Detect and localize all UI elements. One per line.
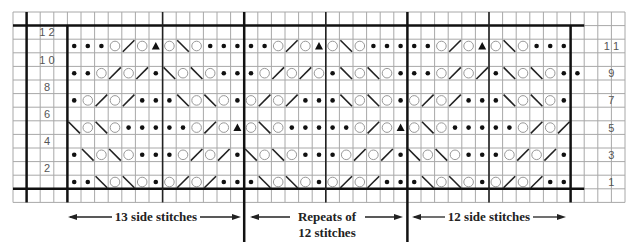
right-arrow-head-icon [557,214,566,220]
yarn-over-circle-icon [423,150,433,160]
yarn-over-circle-icon [464,68,474,78]
knit-dot-icon [480,180,485,185]
knit-dot-icon [222,180,227,185]
yarn-over-circle-icon [246,96,256,106]
yarn-over-circle-icon [545,123,555,133]
right-row-label: 7 [608,94,614,106]
yarn-over-circle-icon [464,177,474,187]
knit-dot-icon [562,98,567,103]
right-decrease-slash-icon [368,176,380,188]
knit-dot-icon [140,98,145,103]
right-decrease-slash-icon [368,122,380,134]
double-decrease-triangle-icon [397,124,405,132]
right-decrease-slash-icon [96,95,108,107]
yarn-over-circle-icon [382,68,392,78]
knit-dot-icon [412,71,417,76]
left-decrease-slash-icon [531,67,543,79]
right-decrease-slash-icon [449,40,461,52]
knit-dot-icon [154,71,159,76]
yarn-over-circle-icon [545,96,555,106]
knit-dot-icon [86,71,91,76]
left-decrease-slash-icon [191,67,203,79]
left-decrease-slash-icon [259,122,271,134]
knit-dot-icon [154,98,159,103]
yarn-over-circle-icon [178,68,188,78]
knit-dot-icon [466,98,471,103]
right-decrease-slash-icon [123,40,135,52]
yarn-over-circle-icon [273,41,283,51]
yarn-over-circle-icon [83,96,93,106]
knit-dot-icon [290,125,295,130]
knit-dot-icon [303,125,308,130]
left-row-label: 2 [44,162,50,174]
knit-dot-icon [507,125,512,130]
chart-grid [13,12,625,202]
yarn-over-circle-icon [505,150,515,160]
repeat-annotation-line2: 12 stitches [298,225,355,240]
knit-dot-icon [317,153,322,158]
knit-dot-icon [480,125,485,130]
left-decrease-slash-icon [286,176,298,188]
knit-dot-icon [235,180,240,185]
left-decrease-slash-icon [204,95,216,107]
right-decrease-slash-icon [517,149,529,161]
knit-dot-icon [398,180,403,185]
left-decrease-slash-icon [259,176,271,188]
right-decrease-slash-icon [204,176,216,188]
yarn-over-circle-icon [287,150,297,160]
yarn-over-circle-icon [518,177,528,187]
yarn-over-circle-icon [260,150,270,160]
yarn-over-circle-icon [491,41,501,51]
left-row-label: 8 [44,81,50,93]
knit-dot-icon [126,125,131,130]
right-row-label: 3 [608,149,614,161]
knit-dot-icon [235,71,240,76]
knit-dot-icon [562,153,567,158]
yarn-over-circle-icon [192,123,202,133]
knit-dot-icon [86,44,91,49]
left-decrease-slash-icon [422,176,434,188]
yarn-over-circle-icon [192,96,202,106]
left-row-label: 1 0 [39,54,54,66]
left-decrease-slash-icon [368,95,380,107]
knit-dot-icon [398,153,403,158]
right-decrease-slash-icon [286,40,298,52]
knit-dot-icon [562,180,567,185]
knit-dot-icon [167,153,172,158]
yarn-over-circle-icon [437,41,447,51]
right-decrease-slash-icon [531,176,543,188]
double-decrease-triangle-icon [152,42,160,50]
knit-dot-icon [412,44,417,49]
knit-dot-icon [330,153,335,158]
knit-dot-icon [154,153,159,158]
knit-dot-icon [494,125,499,130]
yarn-over-circle-icon [301,177,311,187]
right-arrow-head-icon [232,214,241,220]
knit-dot-icon [262,44,267,49]
right-decrease-slash-icon [449,67,461,79]
yarn-over-circle-icon [205,68,215,78]
knit-dot-icon [222,71,227,76]
yarn-over-circle-icon [355,96,365,106]
knit-dot-icon [154,125,159,130]
yarn-over-circle-icon [178,150,188,160]
right-decrease-slash-icon [531,122,543,134]
knit-dot-icon [72,44,77,49]
yarn-over-circle-icon [97,68,107,78]
right-decrease-slash-icon [381,149,393,161]
knitting-chart: 1 21 086421 197531 13 side stitches Repe… [0,0,640,251]
yarn-over-circle-icon [518,123,528,133]
right-row-label: 9 [608,67,614,79]
yarn-over-circle-icon [409,96,419,106]
yarn-over-circle-icon [205,150,215,160]
knit-dot-icon [534,44,539,49]
yarn-over-circle-icon [246,123,256,133]
knit-dot-icon [222,44,227,49]
left-decrease-slash-icon [422,122,434,134]
left-decrease-slash-icon [340,95,352,107]
knit-dot-icon [562,44,567,49]
left-decrease-slash-icon [340,40,352,52]
right-decrease-slash-icon [286,95,298,107]
yarn-over-circle-icon [273,123,283,133]
knit-dot-icon [330,125,335,130]
